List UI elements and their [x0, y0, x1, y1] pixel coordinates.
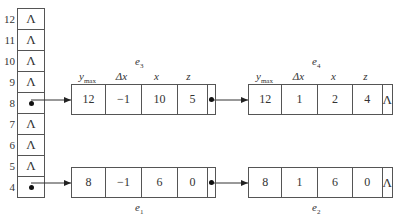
cell-ymax: 8: [72, 168, 106, 197]
node-label-e2: e2: [312, 201, 320, 216]
node-label-e4: e4: [312, 55, 320, 70]
cell-next: [208, 168, 215, 197]
header-z: z: [351, 70, 380, 85]
null-icon: Λ: [383, 85, 392, 114]
header-x: x: [139, 70, 174, 85]
header-dx: Δx: [104, 70, 139, 85]
cell-z: 0: [353, 168, 382, 197]
cell-dx: 1: [282, 85, 317, 114]
cell-x: 2: [318, 85, 353, 114]
field-headers-e4: ymax Δx x z: [248, 70, 380, 85]
cell-dx: −1: [106, 168, 142, 197]
node-e4: 12 1 2 4 Λ: [248, 84, 393, 115]
cell-x: 6: [142, 168, 178, 197]
cell-ymax: 12: [72, 85, 106, 114]
cell-z: 5: [178, 85, 208, 114]
cell-ymax: 8: [249, 168, 282, 197]
node-label-e3: e3: [135, 55, 143, 70]
null-icon: Λ: [383, 168, 392, 197]
header-dx: Δx: [281, 70, 316, 85]
cell-z: 4: [353, 85, 382, 114]
cell-x: 10: [142, 85, 178, 114]
node-e1: 8 −1 6 0: [71, 167, 216, 198]
node-e3: 12 −1 10 5: [71, 84, 216, 115]
pointer-dot-icon: [209, 97, 214, 102]
cell-dx: −1: [106, 85, 142, 114]
cell-x: 6: [318, 168, 353, 197]
header-ymax: ymax: [248, 70, 281, 85]
field-headers-e3: ymax Δx x z: [71, 70, 203, 85]
node-e2: 8 1 6 0 Λ: [248, 167, 393, 198]
cell-z: 0: [178, 168, 208, 197]
cell-ymax: 12: [249, 85, 282, 114]
node-label-e1: e1: [135, 201, 143, 216]
header-ymax: ymax: [71, 70, 104, 85]
header-z: z: [174, 70, 203, 85]
cell-next: [208, 85, 215, 114]
cell-dx: 1: [282, 168, 317, 197]
pointer-dot-icon: [209, 180, 214, 185]
header-x: x: [316, 70, 351, 85]
